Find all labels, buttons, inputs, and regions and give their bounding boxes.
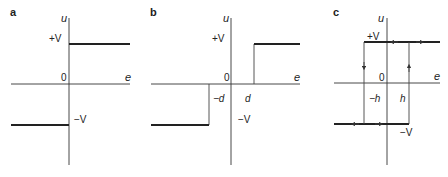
plus-v-label: +V — [49, 33, 62, 44]
neg-d-label: −d — [213, 93, 225, 104]
u-axis-label: u — [61, 12, 67, 24]
relay-characteristics-figure: a u e 0 +V −V b u e 0 +V −V −d d c u e 0… — [0, 0, 448, 177]
e-axis-label: e — [294, 71, 300, 83]
u-axis-label: u — [223, 12, 229, 24]
panel-label-b: b — [150, 6, 157, 18]
neg-h-label: −h — [369, 93, 381, 104]
origin-label: 0 — [61, 72, 67, 83]
panel-label-a: a — [10, 6, 17, 18]
e-axis-label: e — [434, 70, 440, 82]
plus-v-label: +V — [367, 31, 380, 42]
pos-h-label: h — [400, 93, 406, 104]
origin-label: 0 — [379, 72, 385, 83]
e-axis-label: e — [125, 71, 131, 83]
minus-v-label: −V — [400, 127, 413, 138]
panel-a: a u e 0 +V −V — [10, 6, 131, 165]
pos-d-label: d — [245, 93, 251, 104]
panel-c: c u e 0 +V −V −h h — [333, 6, 440, 165]
minus-v-label: −V — [74, 114, 87, 125]
panel-b: b u e 0 +V −V −d d — [150, 6, 300, 165]
u-axis-label: u — [378, 12, 384, 24]
origin-label: 0 — [224, 72, 230, 83]
panel-label-c: c — [333, 6, 339, 18]
minus-v-label: −V — [238, 114, 251, 125]
plus-v-label: +V — [212, 33, 225, 44]
